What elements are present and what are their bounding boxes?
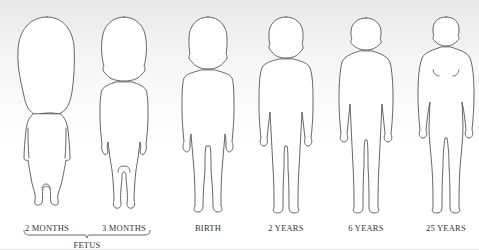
figure-2-months xyxy=(18,17,75,205)
figure-2-years xyxy=(259,17,313,213)
label-2-months: 2 MONTHS xyxy=(25,223,69,233)
head-birth xyxy=(189,17,227,69)
body-2-months xyxy=(24,114,70,205)
head-2-years xyxy=(269,17,303,58)
figure-birth xyxy=(182,17,234,212)
body-2-years xyxy=(259,59,313,213)
figure-25-years xyxy=(418,17,474,213)
label-3-months: 3 MONTHS xyxy=(102,223,146,233)
head-25-years xyxy=(433,17,459,46)
head-3-months xyxy=(102,17,147,81)
body-25-years xyxy=(418,47,474,213)
body-birth xyxy=(182,70,234,212)
body-6-years xyxy=(339,51,393,213)
head-2-months xyxy=(18,17,75,115)
figure-6-years xyxy=(339,18,393,213)
figure-3-months xyxy=(100,17,148,208)
body-3-months xyxy=(100,82,148,208)
label-25-years: 25 YEARS xyxy=(426,223,466,233)
label-fetus-group: FETUS xyxy=(74,240,101,250)
label-2-years: 2 YEARS xyxy=(268,223,303,233)
head-6-years xyxy=(351,18,381,50)
label-6-years: 6 YEARS xyxy=(348,223,383,233)
label-birth: BIRTH xyxy=(195,223,221,233)
